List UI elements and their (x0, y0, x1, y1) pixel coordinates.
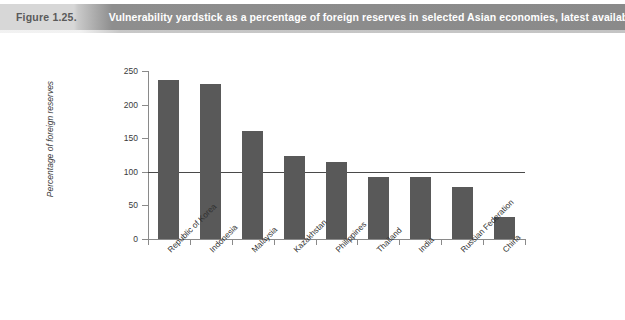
x-tick-mark (148, 240, 149, 245)
x-tick-mark (190, 240, 191, 245)
y-tick-label-wrap: 0 (104, 239, 138, 240)
x-tick-mark (357, 240, 358, 245)
figure-banner: Figure 1.25. Vulnerability yardstick as … (0, 4, 625, 30)
bar (368, 177, 389, 239)
y-axis-line (148, 71, 149, 240)
x-tick-mark (274, 240, 275, 245)
bar (284, 156, 305, 239)
x-tick-mark (483, 240, 484, 245)
x-tick-mark (441, 240, 442, 245)
bar (326, 162, 347, 239)
bar (158, 80, 179, 239)
chart-area: Percentage of foreign reserves 050100150… (0, 30, 625, 320)
y-tick-label: 100 (104, 167, 138, 177)
y-tick-label-wrap: 150 (104, 138, 138, 139)
x-tick-mark (232, 240, 233, 245)
x-tick-mark (399, 240, 400, 245)
x-tick-mark (316, 240, 317, 245)
y-tick-label: 200 (104, 100, 138, 110)
figure-title: Vulnerability yardstick as a percentage … (77, 11, 625, 23)
y-tick-label-wrap: 50 (104, 205, 138, 206)
bar (410, 177, 431, 239)
y-tick-mark (142, 71, 149, 72)
x-tick-mark (525, 240, 526, 245)
y-tick-label: 150 (104, 133, 138, 143)
y-axis-title: Percentage of foreign reserves (45, 49, 55, 229)
y-tick-mark (142, 138, 149, 139)
y-tick-label-wrap: 250 (104, 71, 138, 72)
y-tick-label-wrap: 100 (104, 172, 138, 173)
y-tick-mark (142, 205, 149, 206)
y-tick-label: 50 (104, 200, 138, 210)
y-tick-mark (142, 105, 149, 106)
bar (242, 131, 263, 239)
y-tick-label-wrap: 200 (104, 105, 138, 106)
y-tick-label: 250 (104, 66, 138, 76)
y-tick-label: 0 (104, 234, 138, 244)
bar (452, 187, 473, 239)
figure-number: Figure 1.25. (0, 11, 77, 23)
